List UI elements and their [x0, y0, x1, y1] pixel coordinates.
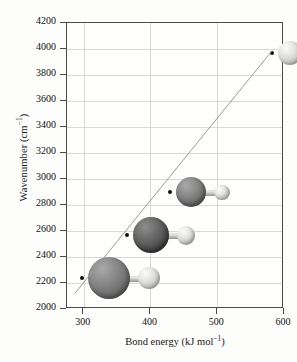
chart-figure: Wavenumber (cm−1) Bond energy (kJ mol−1)…: [0, 0, 297, 362]
molecule-hf: [0, 0, 297, 362]
data-point-hf: [270, 51, 274, 55]
data-point-hbr: [125, 233, 129, 237]
halogen-atom-sphere: [278, 41, 297, 65]
